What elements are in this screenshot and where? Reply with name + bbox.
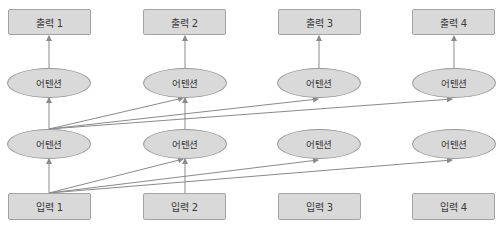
input-node-2: 입력 2: [143, 193, 226, 220]
output-node-2: 출력 2: [143, 9, 226, 35]
attention-upper-node-1: 어텐션: [7, 68, 91, 98]
attention-lower-node-4: 어텐션: [412, 129, 496, 159]
attention-upper-node-2: 어텐션: [143, 68, 227, 98]
output-node-3: 출력 3: [278, 9, 361, 35]
output-node-4: 출력 4: [412, 9, 495, 35]
output-node-1: 출력 1: [8, 9, 91, 35]
attention-lower-node-1: 어텐션: [7, 129, 91, 159]
edge-attn-lower1-attn-upper3: [49, 99, 318, 129]
input-node-4: 입력 4: [412, 193, 495, 220]
edge-input1-attn-lower3: [49, 160, 318, 193]
attention-lower-node-2: 어텐션: [143, 129, 227, 159]
edge-input1-attn-lower4: [49, 160, 452, 193]
attention-upper-node-4: 어텐션: [412, 68, 496, 98]
input-node-1: 입력 1: [8, 193, 91, 220]
input-node-3: 입력 3: [278, 193, 361, 220]
attention-lower-node-3: 어텐션: [277, 129, 361, 159]
edge-attn-lower1-attn-upper4: [49, 99, 452, 129]
attention-upper-node-3: 어텐션: [277, 68, 361, 98]
attention-diagram: 출력 1 출력 2 출력 3 출력 4 어텐션 어텐션 어텐션 어텐션 어텐션 …: [0, 0, 500, 229]
